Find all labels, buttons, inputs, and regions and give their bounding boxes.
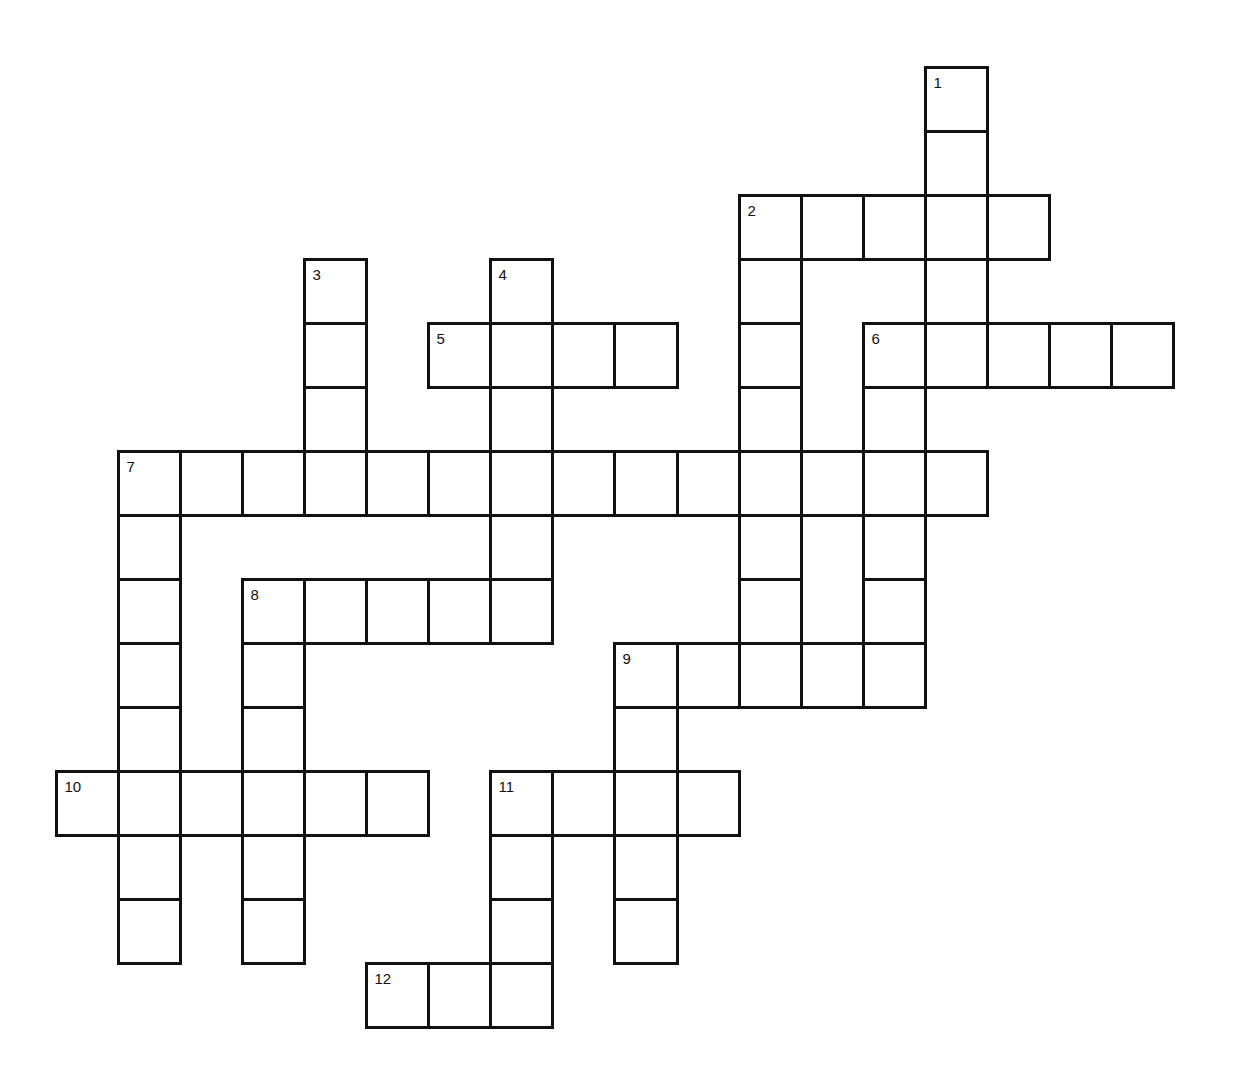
letter-input[interactable]: [368, 453, 427, 514]
crossword-cell[interactable]: [924, 194, 989, 261]
letter-input[interactable]: [803, 645, 862, 706]
crossword-cell[interactable]: [613, 770, 679, 837]
letter-input[interactable]: [492, 389, 551, 450]
letter-input[interactable]: [554, 453, 613, 514]
crossword-cell[interactable]: 12: [365, 962, 430, 1029]
letter-input[interactable]: [306, 261, 365, 322]
crossword-cell[interactable]: [613, 322, 679, 389]
crossword-cell[interactable]: 11: [489, 770, 554, 837]
crossword-cell[interactable]: [489, 962, 554, 1029]
crossword-cell[interactable]: [738, 450, 803, 517]
crossword-cell[interactable]: [303, 578, 368, 645]
letter-input[interactable]: [616, 837, 676, 898]
letter-input[interactable]: [741, 325, 800, 386]
crossword-cell[interactable]: [241, 450, 306, 517]
letter-input[interactable]: [306, 325, 365, 386]
letter-input[interactable]: [927, 197, 986, 258]
crossword-cell[interactable]: [117, 706, 182, 773]
crossword-cell[interactable]: 9: [613, 642, 679, 709]
letter-input[interactable]: [306, 581, 365, 642]
letter-input[interactable]: [306, 389, 365, 450]
letter-input[interactable]: [927, 453, 986, 514]
letter-input[interactable]: [803, 453, 862, 514]
crossword-cell[interactable]: 1: [924, 66, 989, 133]
letter-input[interactable]: [616, 645, 676, 706]
letter-input[interactable]: [244, 581, 303, 642]
letter-input[interactable]: [989, 325, 1048, 386]
letter-input[interactable]: [927, 69, 986, 130]
crossword-cell[interactable]: [676, 770, 741, 837]
letter-input[interactable]: [182, 773, 241, 834]
crossword-cell[interactable]: [303, 386, 368, 453]
letter-input[interactable]: [679, 453, 738, 514]
crossword-cell[interactable]: [613, 450, 679, 517]
crossword-cell[interactable]: 8: [241, 578, 306, 645]
crossword-cell[interactable]: [489, 514, 554, 581]
letter-input[interactable]: [430, 581, 489, 642]
crossword-cell[interactable]: [924, 322, 989, 389]
crossword-cell[interactable]: [241, 706, 306, 773]
letter-input[interactable]: [368, 581, 427, 642]
letter-input[interactable]: [554, 325, 613, 386]
letter-input[interactable]: [1113, 325, 1172, 386]
crossword-cell[interactable]: [117, 834, 182, 901]
letter-input[interactable]: [865, 645, 924, 706]
crossword-cell[interactable]: [241, 898, 306, 965]
letter-input[interactable]: [554, 773, 613, 834]
crossword-cell[interactable]: [427, 578, 492, 645]
crossword-cell[interactable]: [924, 450, 989, 517]
crossword-cell[interactable]: [738, 642, 803, 709]
crossword-cell[interactable]: [117, 898, 182, 965]
letter-input[interactable]: [120, 645, 179, 706]
crossword-cell[interactable]: [1110, 322, 1175, 389]
crossword-cell[interactable]: [427, 962, 492, 1029]
crossword-cell[interactable]: [117, 770, 182, 837]
letter-input[interactable]: [244, 837, 303, 898]
crossword-cell[interactable]: [365, 578, 430, 645]
crossword-cell[interactable]: [365, 770, 430, 837]
letter-input[interactable]: [244, 709, 303, 770]
crossword-cell[interactable]: [489, 386, 554, 453]
crossword-cell[interactable]: 2: [738, 194, 803, 261]
crossword-cell[interactable]: [179, 450, 244, 517]
crossword-cell[interactable]: 3: [303, 258, 368, 325]
letter-input[interactable]: [492, 325, 551, 386]
crossword-cell[interactable]: [489, 898, 554, 965]
crossword-cell[interactable]: [1048, 322, 1113, 389]
letter-input[interactable]: [306, 453, 365, 514]
letter-input[interactable]: [120, 453, 179, 514]
letter-input[interactable]: [492, 517, 551, 578]
crossword-cell[interactable]: 4: [489, 258, 554, 325]
crossword-cell[interactable]: [117, 642, 182, 709]
crossword-cell[interactable]: [800, 642, 865, 709]
crossword-cell[interactable]: [738, 578, 803, 645]
letter-input[interactable]: [741, 453, 800, 514]
letter-input[interactable]: [120, 773, 179, 834]
letter-input[interactable]: [616, 453, 676, 514]
crossword-cell[interactable]: [551, 770, 616, 837]
letter-input[interactable]: [865, 581, 924, 642]
letter-input[interactable]: [741, 645, 800, 706]
letter-input[interactable]: [927, 325, 986, 386]
letter-input[interactable]: [120, 837, 179, 898]
crossword-cell[interactable]: [551, 450, 616, 517]
crossword-cell[interactable]: [241, 834, 306, 901]
letter-input[interactable]: [430, 325, 489, 386]
crossword-cell[interactable]: [862, 450, 927, 517]
letter-input[interactable]: [865, 517, 924, 578]
letter-input[interactable]: [679, 645, 738, 706]
letter-input[interactable]: [865, 389, 924, 450]
crossword-cell[interactable]: [738, 386, 803, 453]
crossword-cell[interactable]: [738, 258, 803, 325]
letter-input[interactable]: [741, 389, 800, 450]
crossword-cell[interactable]: [117, 578, 182, 645]
letter-input[interactable]: [182, 453, 241, 514]
crossword-cell[interactable]: [365, 450, 430, 517]
letter-input[interactable]: [616, 325, 676, 386]
letter-input[interactable]: [492, 261, 551, 322]
crossword-cell[interactable]: [738, 322, 803, 389]
letter-input[interactable]: [492, 837, 551, 898]
crossword-cell[interactable]: [613, 706, 679, 773]
crossword-cell[interactable]: [800, 194, 865, 261]
letter-input[interactable]: [120, 709, 179, 770]
